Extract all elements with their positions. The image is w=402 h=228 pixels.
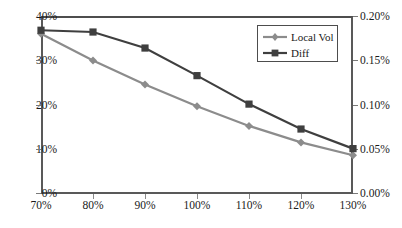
data-point-marker: [297, 138, 305, 146]
legend-marker-square-icon: [262, 46, 288, 60]
y-right-tick-label: 0.20%: [360, 11, 390, 23]
x-tick-label: 110%: [236, 200, 262, 212]
data-point-marker: [349, 151, 357, 159]
y-right-tick-label: 0.00%: [360, 188, 390, 200]
data-point-marker: [37, 27, 44, 34]
y-right-tick-label: 0.15%: [360, 55, 390, 67]
data-point-marker: [193, 102, 201, 110]
legend-label-local-vol: Local Vol: [291, 32, 334, 43]
legend-item-diff: Diff: [262, 45, 333, 61]
data-point-marker: [89, 28, 96, 35]
legend-label-diff: Diff: [291, 48, 309, 59]
x-tick-label: 100%: [184, 200, 211, 212]
data-point-marker: [245, 122, 253, 130]
x-tick-label: 70%: [30, 200, 51, 212]
y-right-tick-mark: [353, 105, 358, 106]
y-right-tick-label: 0.05%: [360, 144, 390, 156]
legend-item-local-vol: Local Vol: [262, 29, 333, 45]
data-point-marker: [349, 145, 356, 152]
data-point-marker: [297, 125, 304, 132]
x-tick-label: 120%: [288, 200, 315, 212]
data-point-marker: [141, 44, 148, 51]
x-tick-label: 90%: [134, 200, 155, 212]
legend: Local Vol Diff: [257, 25, 338, 62]
data-point-marker: [245, 101, 252, 108]
legend-marker-diamond-icon: [262, 30, 288, 44]
y-right-tick-mark: [353, 60, 358, 61]
x-tick-label: 80%: [82, 200, 103, 212]
x-tick-label: 130%: [340, 200, 367, 212]
y-right-tick-label: 0.10%: [360, 100, 390, 112]
x-tick-mark: [145, 194, 146, 199]
x-tick-mark: [249, 194, 250, 199]
data-point-marker: [89, 57, 97, 65]
chart-container: 40% 30% 20% 10% 0% 0.20% 0.15% 0.10% 0.0…: [0, 0, 402, 228]
data-point-marker: [193, 72, 200, 79]
x-tick-mark: [197, 194, 198, 199]
x-tick-mark: [93, 194, 94, 199]
data-point-marker: [141, 81, 149, 89]
y-right-tick-mark: [353, 16, 358, 17]
y-right-tick-mark: [353, 193, 358, 194]
x-tick-mark: [301, 194, 302, 199]
